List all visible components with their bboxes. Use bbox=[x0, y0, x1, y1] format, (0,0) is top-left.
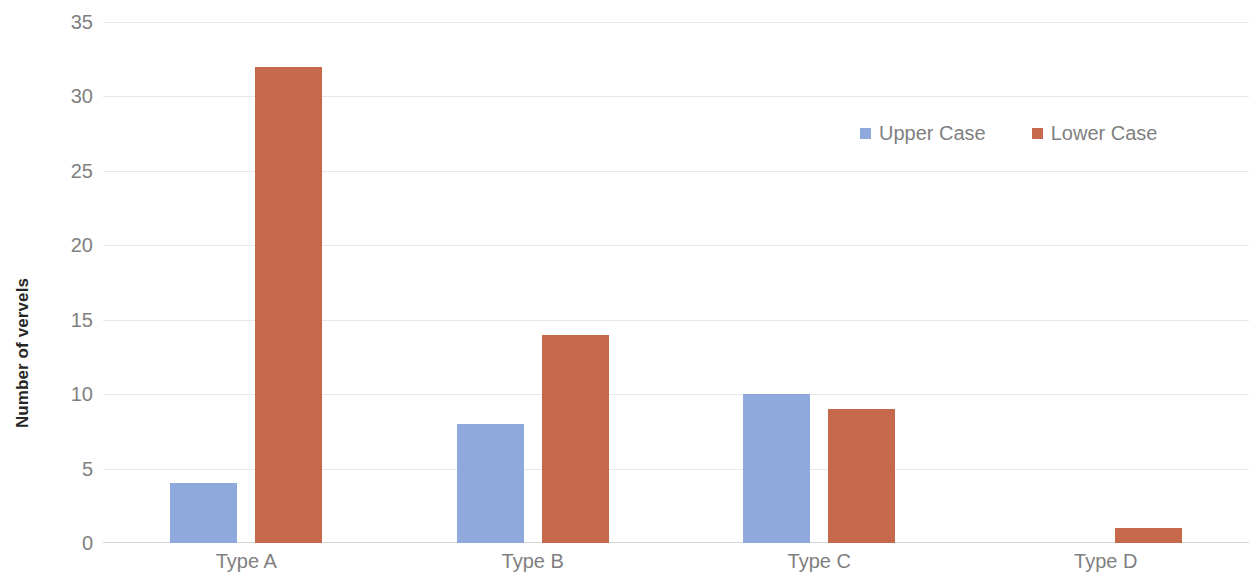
bar bbox=[255, 67, 322, 543]
y-axis-tick-label: 30 bbox=[33, 86, 93, 106]
y-axis-tick-label: 15 bbox=[33, 310, 93, 330]
legend-label: Lower Case bbox=[1051, 123, 1158, 143]
legend-label: Upper Case bbox=[879, 123, 986, 143]
bar bbox=[743, 394, 810, 543]
legend-swatch-icon bbox=[1032, 128, 1043, 139]
y-axis-tick-label: 0 bbox=[33, 533, 93, 553]
x-axis-tick-label: Type A bbox=[136, 551, 356, 571]
bar bbox=[828, 409, 895, 543]
plot-area bbox=[103, 22, 1249, 543]
legend-entry[interactable]: Upper Case bbox=[860, 123, 986, 143]
x-axis-tick-label: Type B bbox=[423, 551, 643, 571]
gridline bbox=[103, 22, 1249, 23]
y-axis-tick-label: 10 bbox=[33, 384, 93, 404]
bar bbox=[457, 424, 524, 543]
bar-chart: Number of vervels 35302520151050 Type AT… bbox=[0, 0, 1253, 584]
y-axis-tick-label: 20 bbox=[33, 235, 93, 255]
bar bbox=[170, 483, 237, 543]
y-axis-title: Number of vervels bbox=[13, 253, 39, 453]
y-axis-tick-label: 35 bbox=[33, 12, 93, 32]
y-axis-tick-label: 25 bbox=[33, 161, 93, 181]
x-axis-tick-label: Type D bbox=[996, 551, 1216, 571]
x-axis-tick-label: Type C bbox=[709, 551, 929, 571]
bar bbox=[542, 335, 609, 543]
legend-swatch-icon bbox=[860, 128, 871, 139]
chart-legend: Upper CaseLower Case bbox=[860, 120, 1157, 146]
legend-entry[interactable]: Lower Case bbox=[1032, 123, 1158, 143]
y-axis-tick-label: 5 bbox=[33, 459, 93, 479]
bar bbox=[1115, 528, 1182, 543]
